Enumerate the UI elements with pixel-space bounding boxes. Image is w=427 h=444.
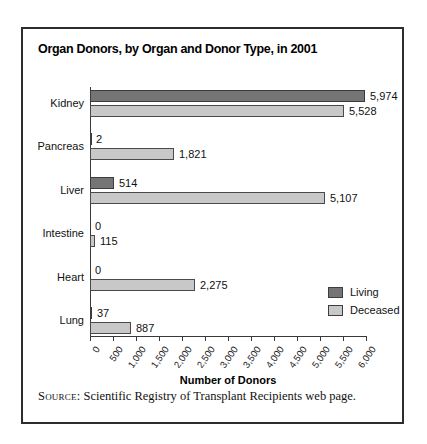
x-axis-tick	[113, 337, 114, 341]
y-axis-line	[90, 87, 91, 336]
living-bar	[90, 133, 92, 145]
bar-value-label: 37	[97, 307, 109, 319]
category-label: Pancreas	[26, 140, 84, 152]
bar-value-label: 5,974	[370, 90, 398, 102]
bar-value-label: 1,821	[179, 148, 207, 160]
deceased-bar	[90, 105, 344, 117]
x-axis-tick	[159, 337, 160, 341]
bar-value-label: 5,528	[349, 105, 377, 117]
legend: Living Deceased	[328, 286, 400, 322]
x-axis-title: Number of Donors	[90, 374, 366, 386]
deceased-bar	[90, 322, 131, 334]
x-axis-tick	[228, 337, 229, 341]
category-label: Liver	[26, 184, 84, 196]
bar-value-label: 115	[100, 235, 118, 247]
x-axis-tick	[136, 337, 137, 341]
living-swatch-icon	[328, 287, 343, 298]
x-axis-tick	[251, 337, 252, 341]
living-bar	[90, 177, 114, 189]
x-axis-tick	[182, 337, 183, 341]
category-label: Heart	[26, 271, 84, 283]
legend-item-deceased: Deceased	[328, 304, 400, 316]
living-bar	[90, 307, 92, 319]
category-label: Lung	[26, 314, 84, 326]
legend-label-deceased: Deceased	[350, 304, 400, 316]
deceased-bar	[90, 192, 325, 204]
category-label: Intestine	[26, 227, 84, 239]
bar-value-label: 514	[119, 177, 137, 189]
bar-value-label: 2,275	[200, 279, 228, 291]
bar-value-label: 0	[95, 264, 101, 276]
bar-value-label: 0	[95, 220, 101, 232]
deceased-bar	[90, 148, 174, 160]
x-axis-tick	[343, 337, 344, 341]
x-axis-tick	[205, 337, 206, 341]
x-axis-tick	[297, 337, 298, 341]
x-axis-tick	[274, 337, 275, 341]
source-prefix: Source:	[38, 389, 80, 403]
bar-value-label: 2	[96, 133, 102, 145]
category-label: Kidney	[26, 97, 84, 109]
legend-label-living: Living	[350, 286, 379, 298]
source-text: Scientific Registry of Transplant Recipi…	[80, 389, 356, 403]
x-axis-tick	[366, 337, 367, 341]
legend-item-living: Living	[328, 286, 400, 298]
living-bar	[90, 90, 365, 102]
source-note: Source: Scientific Registry of Transplan…	[38, 389, 356, 404]
deceased-swatch-icon	[328, 305, 343, 316]
deceased-bar	[90, 235, 95, 247]
x-axis-tick	[90, 337, 91, 341]
figure-frame: Organ Donors, by Organ and Donor Type, i…	[21, 27, 404, 424]
bar-value-label: 5,107	[330, 192, 358, 204]
deceased-bar	[90, 279, 195, 291]
bar-chart-plot-area: 05001,0001,5002,0002,5003,0003,5004,0004…	[23, 29, 402, 422]
bar-value-label: 887	[136, 322, 154, 334]
x-axis-tick	[320, 337, 321, 341]
